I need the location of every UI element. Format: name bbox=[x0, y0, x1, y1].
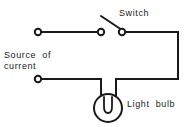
switch-contact-right-icon bbox=[119, 29, 125, 35]
source-terminal-top-icon bbox=[35, 29, 41, 35]
switch-label: Switch bbox=[119, 8, 149, 19]
light-bulb-label: Light bulb bbox=[127, 99, 175, 110]
switch-contact-left-icon bbox=[98, 29, 104, 35]
source-label-line-1: Source of bbox=[4, 50, 51, 60]
circuit-diagram: Switch Source ofcurrent Light bulb bbox=[0, 0, 189, 127]
light-bulb-icon bbox=[94, 94, 122, 122]
source-of-current-label: Source ofcurrent bbox=[4, 50, 51, 72]
source-label-line-2: current bbox=[4, 61, 36, 71]
source-terminal-bottom-icon bbox=[35, 76, 41, 82]
